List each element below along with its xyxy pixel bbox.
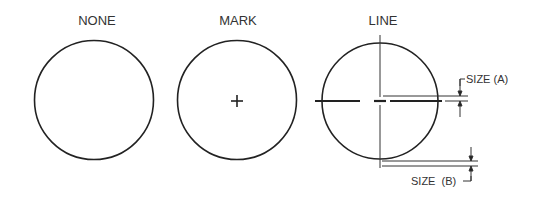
panel-label-none: NONE [78, 13, 116, 28]
size-a-dimension [383, 79, 468, 117]
panel-label-line: LINE [369, 13, 398, 28]
panel-label-mark: MARK [219, 13, 257, 28]
center-mark-diagram: NONE MARK LINE [0, 0, 539, 197]
center-mark-icon [231, 95, 243, 107]
panel-mark: MARK [178, 13, 297, 160]
circle-none [35, 41, 154, 160]
panel-line: LINE SIZE (A) [315, 13, 508, 187]
size-a-label: SIZE (A) [466, 73, 508, 85]
panel-none: NONE [35, 13, 154, 160]
size-b-label: SIZE (B) [411, 175, 456, 187]
